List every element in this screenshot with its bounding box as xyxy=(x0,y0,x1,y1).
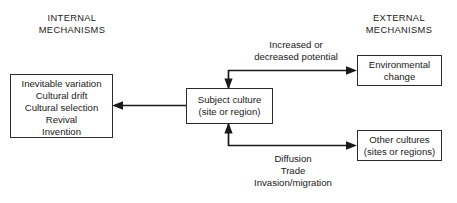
connector-subject-environmental-elbow xyxy=(229,71,348,89)
bottom-edge-label-line1: Diffusion xyxy=(274,153,311,164)
top-edge-label-line2: decreased potential xyxy=(254,51,338,62)
bottom-edge-label-line2: Trade xyxy=(281,165,306,176)
arrowhead-into-other-cultures xyxy=(346,141,357,149)
other-cultures-line1: Other cultures xyxy=(369,134,429,145)
internal-mechanisms-item-4: Invention xyxy=(42,126,81,137)
arrowhead-into-subject-culture-bottom xyxy=(224,123,232,134)
arrowhead-into-subject-culture-top xyxy=(224,79,232,90)
environmental-change-line2: change xyxy=(384,71,415,82)
subject-culture-line2: (site or region) xyxy=(199,106,261,117)
bottom-edge-label-line3: Invasion/migration xyxy=(254,177,332,188)
environmental-change-line1: Environmental xyxy=(369,59,430,70)
internal-mechanisms-header-line1: INTERNAL xyxy=(48,13,97,23)
internal-mechanisms-item-3: Revival xyxy=(46,114,77,125)
internal-mechanisms-item-2: Cultural selection xyxy=(25,102,99,113)
internal-mechanisms-item-0: Inevitable variation xyxy=(22,78,102,89)
internal-mechanisms-item-1: Cultural drift xyxy=(36,90,88,101)
diagram-canvas: INTERNAL MECHANISMS EXTERNAL MECHANISMS … xyxy=(0,0,457,203)
internal-mechanisms-header-line2: MECHANISMS xyxy=(39,25,106,35)
external-mechanisms-header-line2: MECHANISMS xyxy=(366,25,433,35)
connector-subject-other-cultures-elbow xyxy=(229,124,348,146)
flow-diagram: INTERNAL MECHANISMS EXTERNAL MECHANISMS … xyxy=(0,0,457,203)
arrowhead-into-environmental-change xyxy=(346,66,357,74)
other-cultures-line2: (sites or regions) xyxy=(364,146,435,157)
external-mechanisms-header-line1: EXTERNAL xyxy=(373,13,425,23)
top-edge-label-line1: Increased or xyxy=(269,39,323,50)
arrowhead-into-internal-mechanisms xyxy=(112,101,123,109)
subject-culture-line1: Subject culture xyxy=(198,94,261,105)
